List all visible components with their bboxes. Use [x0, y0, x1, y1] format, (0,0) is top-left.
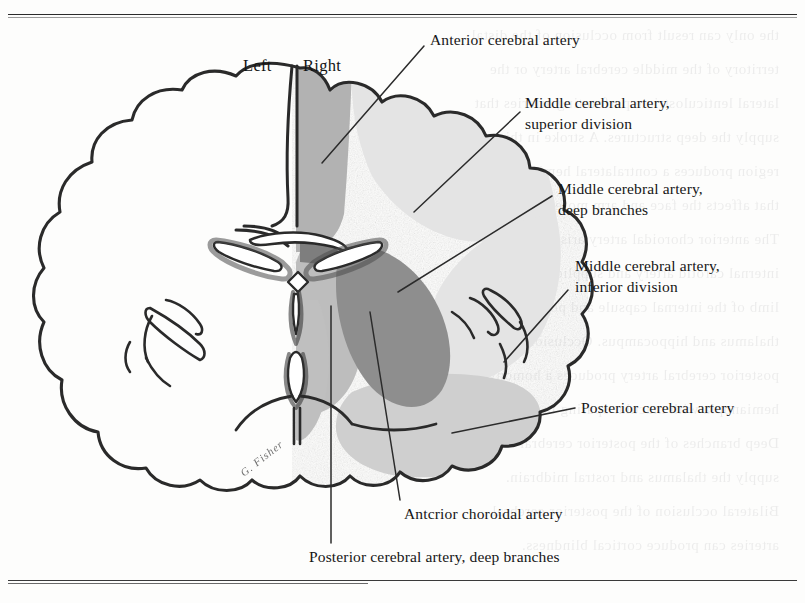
bottom-horizontal-rule — [8, 580, 797, 581]
label-pca-deep-branches: Posterior cerebral artery, deep branches — [309, 547, 560, 567]
label-mca-inferior-division: Middle cerebral artery, inferior divisio… — [575, 255, 803, 297]
territory-anterior-cerebral-artery — [296, 66, 352, 252]
leader-mca-superior-division — [414, 112, 520, 212]
ventricular-system — [210, 240, 386, 444]
label-mca-deep-branches: Middle cerebral artery, deep branches — [558, 178, 793, 220]
territory-posterior-cerebral-artery — [336, 374, 541, 478]
artist-signature: G. Fisher — [238, 438, 286, 479]
leader-posterior-cerebral-artery — [452, 408, 575, 433]
territory-mca-inferior-division — [424, 214, 561, 387]
label-posterior-cerebral-artery: Posterior cerebral artery — [581, 398, 735, 418]
territory-pca-deep-branches — [296, 300, 329, 441]
label-line-2: superior division — [525, 113, 755, 134]
label-mca-superior-division: Middle cerebral artery, superior divisio… — [525, 92, 755, 134]
reverse-page-bleedthrough: the only can result from occlusion of th… — [0, 0, 805, 603]
figure-page: the only can result from occlusion of th… — [0, 0, 805, 603]
corpus-callosum — [250, 233, 347, 252]
label-line-1: Middle cerebral artery, — [525, 92, 755, 113]
leader-mca-inferior-division — [504, 290, 568, 362]
label-anterior-choroidal-artery: Antcrior choroidal artery — [404, 504, 563, 524]
brain-outline — [34, 63, 593, 490]
territory-mca-deep-branches — [336, 246, 450, 407]
leader-anterior-choroidal-artery — [370, 312, 400, 500]
label-line-2: deep branches — [558, 199, 793, 220]
top-horizontal-rule — [8, 14, 797, 15]
label-anterior-cerebral-artery: Anterior cerebral artery — [430, 30, 580, 50]
territory-anterior-choroidal-artery — [296, 251, 363, 415]
brain-coronal-section-diagram — [0, 0, 805, 603]
sulci-right — [452, 289, 527, 378]
leader-mca-deep-branches — [398, 196, 552, 292]
hemisphere-label-left: Left — [243, 56, 272, 76]
label-line-2: inferior division — [575, 276, 803, 297]
temporal-horn-right — [300, 396, 436, 430]
label-line-1: Middle cerebral artery, — [558, 178, 793, 199]
label-line-1: Middle cerebral artery, — [575, 255, 803, 276]
sulci-left — [126, 300, 205, 386]
territory-deep-wedge — [300, 238, 342, 266]
hemisphere-label-right: Right — [303, 56, 341, 76]
interhemispheric-fissure — [236, 66, 297, 246]
temporal-horn-left — [236, 396, 292, 430]
